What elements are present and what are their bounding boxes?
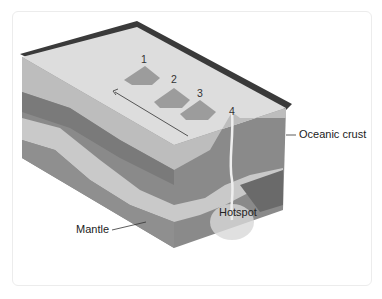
label-hotspot: Hotspot	[219, 206, 257, 218]
label-oceanic-crust: Oceanic crust	[299, 128, 366, 140]
volcano-label-4: 4	[229, 105, 235, 117]
volcano-label-2: 2	[171, 73, 177, 85]
volcano-label-3: 3	[197, 87, 203, 99]
label-mantle: Mantle	[76, 223, 109, 235]
hotspot-block-diagram	[0, 0, 382, 299]
volcano-label-1: 1	[141, 53, 147, 65]
